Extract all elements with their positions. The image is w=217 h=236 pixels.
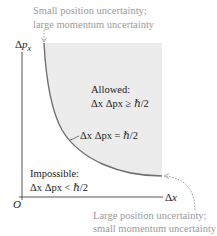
impossible-label: Impossible: Δx Δpx < ℏ/2 <box>30 168 88 194</box>
boundary-label: Δx Δpx = ℏ/2 <box>80 130 138 142</box>
bottom-note-line2: small momentum uncertainty <box>93 223 216 235</box>
allowed-equation: Δx Δpx ≥ ℏ/2 <box>91 98 149 110</box>
top-note: Small position uncertainty; large moment… <box>33 5 154 31</box>
top-note-line1: Small position uncertainty; <box>33 5 154 17</box>
diagram-canvas <box>0 0 217 236</box>
impossible-title: Impossible: <box>30 168 88 180</box>
bottom-note: Large position uncertainty; small moment… <box>93 210 216 235</box>
impossible-equation: Δx Δpx < ℏ/2 <box>30 182 88 194</box>
allowed-label: Allowed: Δx Δpx ≥ ℏ/2 <box>91 84 149 110</box>
bottom-note-line1: Large position uncertainty; <box>93 210 216 222</box>
allowed-title: Allowed: <box>91 84 149 96</box>
origin-label: O <box>13 198 21 210</box>
top-note-line2: large momentum uncertainty <box>33 19 154 31</box>
x-axis-label: Δx <box>165 191 177 203</box>
y-axis-label: Δpx <box>15 38 31 55</box>
